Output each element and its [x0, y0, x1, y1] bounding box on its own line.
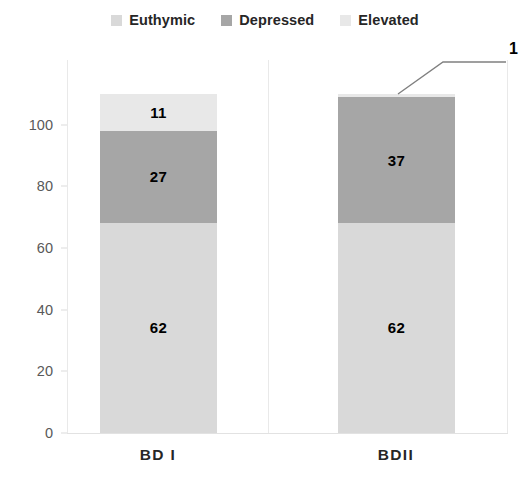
x-axis: BD I BDII: [67, 440, 508, 476]
x-axis-label-bd-ii: BDII: [321, 446, 471, 464]
plot-baseline: [67, 433, 508, 434]
legend-swatch-elevated-icon: [340, 15, 351, 26]
plot-frame-middle-divider: [268, 60, 269, 433]
bar-segment-bd-ii-euthymic[interactable]: 62: [338, 223, 455, 433]
y-tick-label-0: 0: [45, 425, 53, 441]
plot-frame-left-line: [67, 60, 68, 433]
chart-legend: Euthymic Depressed Elevated: [0, 8, 530, 32]
bar-value-bd-i-elevated: 11: [150, 105, 166, 120]
y-tick-label-80: 80: [37, 178, 53, 194]
y-tick-label-40: 40: [37, 302, 53, 318]
bar-value-bd-i-euthymic: 62: [150, 320, 167, 335]
legend-label-depressed: Depressed: [239, 12, 314, 28]
y-tick-label-20: 20: [37, 363, 53, 379]
bar-segment-bd-i-elevated[interactable]: 11: [100, 94, 217, 131]
legend-label-euthymic: Euthymic: [129, 12, 195, 28]
bar-value-bd-ii-euthymic: 62: [388, 320, 405, 335]
y-axis: 100 80 60 40 20 0: [0, 60, 67, 434]
legend-item-euthymic[interactable]: Euthymic: [111, 12, 195, 28]
bar-segment-bd-i-euthymic[interactable]: 62: [100, 223, 217, 433]
plot-frame-right-line: [507, 60, 508, 433]
bar-segment-bd-i-depressed[interactable]: 27: [100, 131, 217, 223]
legend-swatch-depressed-icon: [221, 15, 232, 26]
legend-item-elevated[interactable]: Elevated: [340, 12, 418, 28]
leader-line-icon: [338, 38, 530, 98]
bar-value-bd-ii-depressed: 37: [388, 153, 405, 168]
plot-area: 11 27 62 37 62 1: [67, 60, 508, 433]
legend-label-elevated: Elevated: [358, 12, 418, 28]
callout-bd-ii-elevated: 1: [338, 38, 530, 98]
x-axis-label-bd-i: BD I: [83, 446, 233, 464]
y-tick-label-100: 100: [29, 117, 53, 133]
bar-value-bd-ii-elevated: 1: [509, 40, 518, 58]
bar-segment-bd-ii-depressed[interactable]: 37: [338, 97, 455, 222]
stacked-bar-chart: Euthymic Depressed Elevated 100 80 60 40…: [0, 0, 530, 483]
y-tick-label-60: 60: [37, 240, 53, 256]
bar-value-bd-i-depressed: 27: [150, 169, 167, 184]
legend-item-depressed[interactable]: Depressed: [221, 12, 314, 28]
legend-swatch-euthymic-icon: [111, 15, 122, 26]
